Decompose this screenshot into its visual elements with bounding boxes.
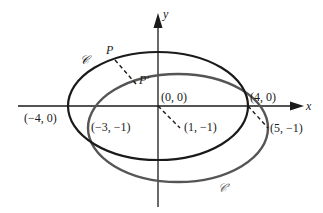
curve-c-prime-label: 𝒞′ xyxy=(218,181,230,195)
y-axis-label: y xyxy=(162,7,169,21)
diagram-canvas: y x 𝒞 𝒞′ P P′ (0, 0) (1, −1) (4, 0) (5, … xyxy=(0,0,323,213)
x-axis-label: x xyxy=(305,99,312,113)
curve-c-label: 𝒞 xyxy=(80,53,92,67)
point-p-label: P xyxy=(105,43,114,57)
left-vertex-label: (−4, 0) xyxy=(24,111,57,125)
right-vertex-label: (4, 0) xyxy=(250,90,276,104)
point-p-prime-label: P′ xyxy=(138,73,149,87)
translation-origin xyxy=(158,106,180,128)
right-vertex-image-label: (5, −1) xyxy=(270,121,303,135)
x-axis-arrow-icon xyxy=(290,102,304,111)
y-axis-arrow-icon xyxy=(154,13,163,28)
origin-label: (0, 0) xyxy=(161,90,187,104)
left-vertex-image-label: (−3, −1) xyxy=(91,120,131,134)
origin-image-label: (1, −1) xyxy=(184,120,217,134)
